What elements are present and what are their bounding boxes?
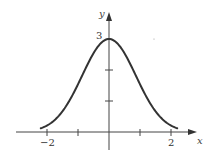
bell-curve-chart: y x 3 −2 2 bbox=[0, 0, 220, 156]
x-tick-label-2: 2 bbox=[168, 137, 174, 148]
x-tick-label-neg2: −2 bbox=[40, 137, 55, 148]
y-axis-arrow-icon bbox=[106, 12, 112, 21]
y-tick-label-3: 3 bbox=[96, 30, 102, 41]
x-axis-label: x bbox=[197, 135, 203, 146]
speck-mark bbox=[153, 38, 154, 39]
x-axis-arrow-icon bbox=[188, 129, 197, 135]
y-axis-label: y bbox=[98, 8, 105, 19]
